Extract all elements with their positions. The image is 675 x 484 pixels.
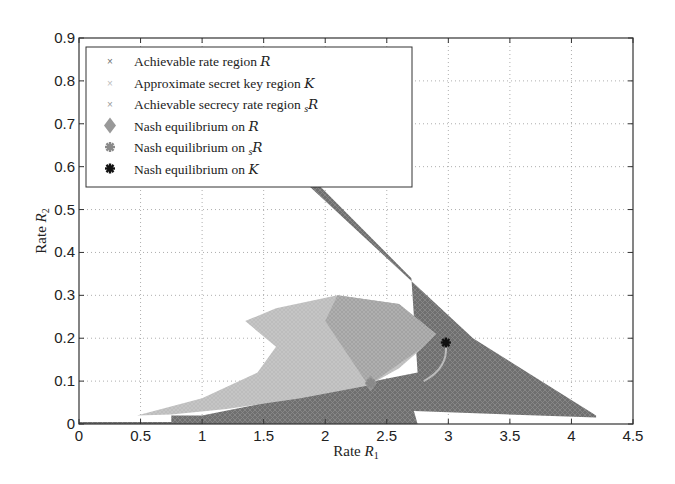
legend-entry: Achievable secrecy rate region sR — [134, 96, 318, 114]
x-tick-label: 1.5 — [253, 427, 274, 444]
nash-equilibrium-marker — [366, 378, 376, 388]
legend-entry: Nash equilibrium on sR — [134, 139, 262, 157]
y-tick-label: 0.2 — [54, 329, 75, 346]
y-tick-label: 0.6 — [54, 158, 75, 175]
legend-entry: Nash equilibrium on R — [134, 118, 259, 134]
x-tick-label: 4 — [567, 427, 575, 444]
y-axis-label: Rate R2 — [33, 208, 51, 253]
x-tick-label: 3.5 — [499, 427, 520, 444]
legend: ×Achievable rate region R×Approximate se… — [86, 47, 412, 187]
y-tick-label: 0.7 — [54, 115, 75, 132]
legend-marker-icon: × — [107, 56, 113, 67]
legend-marker-icon — [105, 164, 115, 174]
x-tick-label: 3 — [444, 427, 452, 444]
x-tick-label: 2 — [321, 427, 329, 444]
y-tick-label: 0.5 — [54, 201, 75, 218]
y-tick-label: 0 — [67, 415, 75, 432]
x-tick-label: 2.5 — [376, 427, 397, 444]
y-tick-label: 0.8 — [54, 72, 75, 89]
legend-marker-icon: × — [107, 78, 113, 89]
y-tick-label: 0.4 — [54, 243, 75, 260]
plot-regions — [79, 167, 596, 424]
legend-entry: Achievable rate region R — [134, 53, 270, 69]
nash-equilibrium-marker — [441, 338, 451, 348]
y-tick-label: 0.9 — [54, 29, 75, 46]
x-tick-label: 4.5 — [623, 427, 644, 444]
x-tick-label: 0.5 — [130, 427, 151, 444]
x-tick-label: 0 — [75, 427, 83, 444]
x-tick-label: 1 — [198, 427, 206, 444]
legend-marker-icon: × — [107, 99, 113, 110]
chart-canvas: 00.511.522.533.544.500.10.20.30.40.50.60… — [0, 0, 675, 484]
y-tick-label: 0.1 — [54, 372, 75, 389]
x-axis-label: Rate R1 — [333, 443, 378, 461]
y-tick-label: 0.3 — [54, 286, 75, 303]
legend-entry: Nash equilibrium on K — [134, 161, 259, 177]
legend-entry: Approximate secret key region K — [134, 75, 315, 91]
legend-marker-icon — [105, 142, 115, 152]
